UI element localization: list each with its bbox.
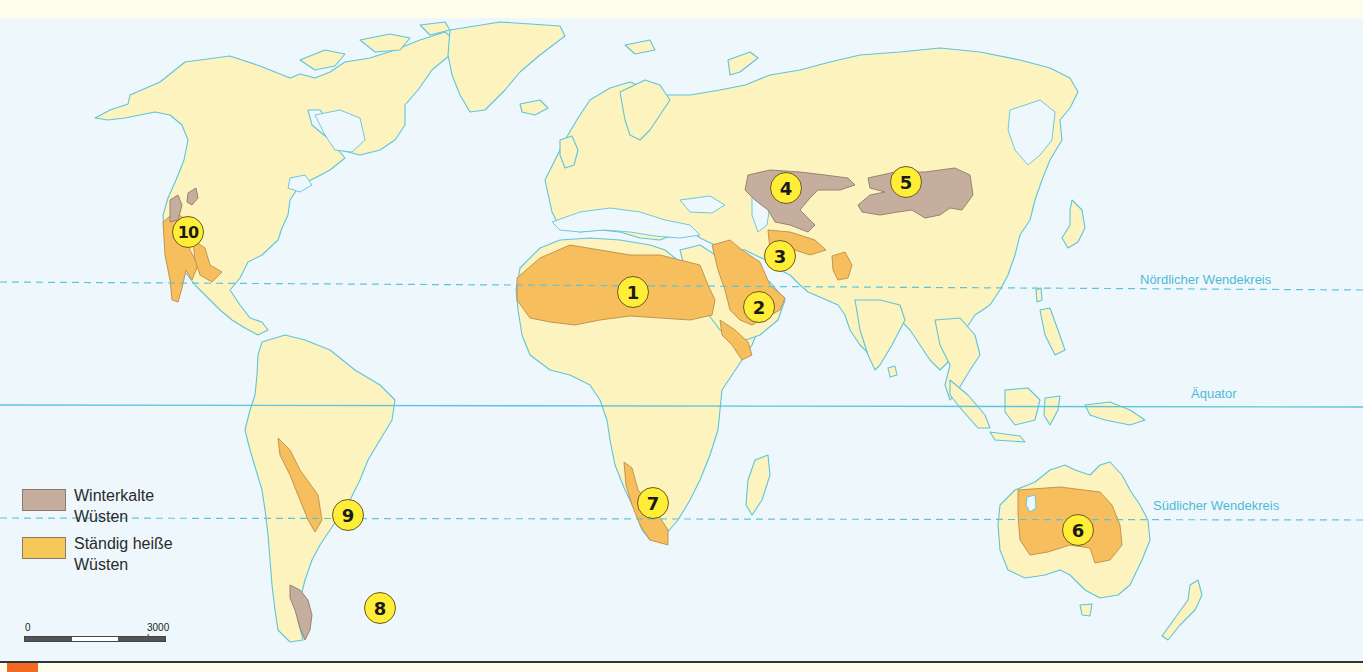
sulawesi bbox=[1044, 396, 1060, 425]
desert-badge-6[interactable]: 6 bbox=[1062, 514, 1094, 546]
india bbox=[855, 300, 905, 370]
desert-badge-9[interactable]: 9 bbox=[332, 499, 364, 531]
orange-marker-tab bbox=[7, 663, 38, 672]
legend-label-line2: Wüsten bbox=[74, 506, 184, 527]
legend-label-line1: Winterkalte bbox=[74, 485, 184, 506]
legend-label-line2: Wüsten bbox=[74, 554, 184, 575]
desert-badge-10[interactable]: 10 bbox=[172, 216, 204, 248]
equator-line bbox=[0, 405, 1363, 407]
legend-item-hot-desert: Ständig heiße Wüsten bbox=[22, 533, 232, 575]
bottom-divider bbox=[0, 661, 1363, 663]
iceland bbox=[520, 100, 548, 115]
tropic-of-cancer-label: Nördlicher Wendekreis bbox=[1140, 272, 1271, 287]
continent-north-america bbox=[95, 32, 455, 335]
scale-start-label: 0 bbox=[25, 622, 31, 633]
new-guinea bbox=[1085, 402, 1145, 425]
hot-desert-swatch bbox=[22, 537, 66, 559]
philippines bbox=[1040, 308, 1065, 355]
desert-badge-4[interactable]: 4 bbox=[770, 172, 802, 204]
desert-badge-8[interactable]: 8 bbox=[364, 592, 396, 624]
map-legend: Winterkalte Wüsten Ständig heiße Wüsten bbox=[22, 485, 232, 581]
tasmania bbox=[1080, 604, 1092, 616]
legend-label-line1: Ständig heiße bbox=[74, 533, 184, 554]
sri-lanka bbox=[888, 366, 897, 377]
cold-desert-swatch bbox=[22, 489, 66, 511]
novaya-zemlya bbox=[728, 52, 758, 75]
taiwan bbox=[1036, 288, 1042, 302]
tropic-of-capricorn-label: Südlicher Wendekreis bbox=[1153, 498, 1279, 513]
desert-badge-3[interactable]: 3 bbox=[764, 240, 796, 272]
svalbard bbox=[625, 40, 655, 54]
java bbox=[990, 432, 1025, 442]
desert-badge-7[interactable]: 7 bbox=[637, 487, 669, 519]
desert-badge-5[interactable]: 5 bbox=[890, 166, 922, 198]
legend-item-cold-desert: Winterkalte Wüsten bbox=[22, 485, 232, 527]
sumatra bbox=[950, 380, 990, 428]
greenland bbox=[448, 22, 565, 112]
world-map[interactable]: Nördlicher Wendekreis Äquator Südlicher … bbox=[0, 18, 1363, 661]
desert-badge-1[interactable]: 1 bbox=[617, 276, 649, 308]
scale-bar-graphic bbox=[24, 636, 166, 642]
new-zealand bbox=[1162, 580, 1202, 640]
equator-label: Äquator bbox=[1191, 386, 1237, 401]
japan bbox=[1062, 200, 1085, 248]
madagascar bbox=[746, 455, 770, 515]
scale-bar: 0 3000 km bbox=[24, 622, 174, 652]
desert-badge-2[interactable]: 2 bbox=[743, 291, 775, 323]
